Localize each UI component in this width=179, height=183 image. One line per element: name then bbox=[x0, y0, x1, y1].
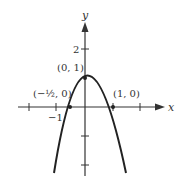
x-axis bbox=[18, 103, 165, 111]
x-axis-label: x bbox=[168, 101, 175, 114]
y-axis-arrow-icon bbox=[82, 22, 89, 32]
point-label-left: (−½, 0) bbox=[33, 88, 72, 99]
point-right-intercept bbox=[111, 105, 115, 109]
point-y-intercept bbox=[83, 76, 87, 80]
y-axis-label: y bbox=[81, 9, 89, 22]
point-label-right: (1, 0) bbox=[113, 88, 140, 99]
y-axis bbox=[81, 22, 89, 176]
point-label-top: (0, 1) bbox=[57, 62, 84, 73]
y-tick-label-2: 2 bbox=[73, 44, 79, 55]
point-left-intercept bbox=[68, 105, 72, 109]
parabola-chart: x y −1 2 (−½, 0) (0, 1) (1, 0) bbox=[0, 0, 179, 183]
x-axis-arrow-icon bbox=[155, 104, 165, 111]
x-tick-label-neg1: −1 bbox=[48, 112, 63, 123]
